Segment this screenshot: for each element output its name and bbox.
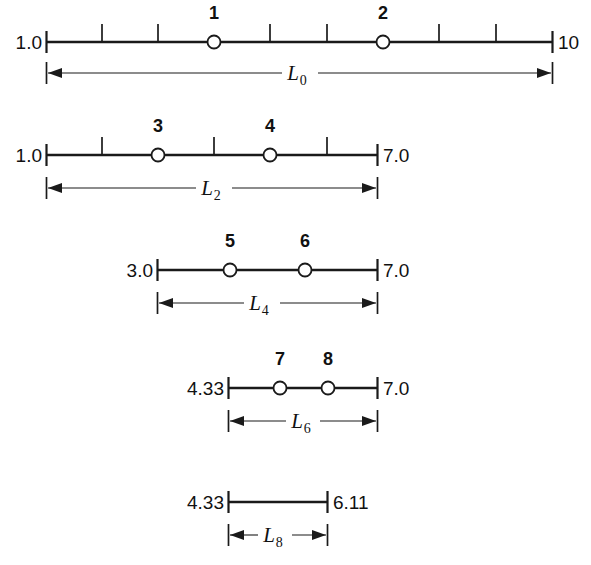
dimension-label-L2: L2 [200,176,221,203]
interval-right-label-L6: 7.0 [383,378,409,399]
trial-point-marker-8 [322,382,335,395]
interval-right-label-L2: 7.0 [383,145,409,166]
trial-point-marker-5 [224,264,237,277]
dimension-L2: L2 [47,176,378,203]
trial-point-label-3: 3 [153,116,163,136]
interval-row-L0: 1.0 1 2 10 [16,3,580,88]
interval-reduction-figure: 1.0 1 2 10 [0,0,591,565]
trial-point-label-6: 6 [300,231,310,251]
trial-point-label-4: 4 [265,116,275,136]
interval-row-L4: 3.0 5 6 7.0 L4 [127,231,410,318]
trial-point-marker-1 [208,36,221,49]
interval-row-L8: 4.33 6.11 L8 [187,491,369,550]
interval-right-label-L0: 10 [558,32,579,53]
dimension-L6: L6 [229,409,378,436]
interval-left-label-L8: 4.33 [187,492,224,513]
interval-left-label-L6: 4.33 [187,378,224,399]
dimension-label-L6: L6 [290,409,311,436]
interval-left-label-L2: 1.0 [16,145,42,166]
trial-point-label-5: 5 [225,231,235,251]
trial-point-marker-3 [152,149,165,162]
trial-point-marker-6 [299,264,312,277]
interval-row-L6: 4.33 7 8 7.0 L6 [187,349,409,436]
trial-point-marker-2 [377,36,390,49]
interval-left-label-L0: 1.0 [16,32,42,53]
dimension-label-L8: L8 [262,523,283,550]
trial-point-marker-4 [264,149,277,162]
axis-ticks-L2 [102,137,327,155]
dimension-L4: L4 [158,291,378,318]
dimension-label-L0: L0 [286,61,307,88]
trial-point-label-2: 2 [378,3,388,23]
interval-right-label-L4: 7.0 [383,260,409,281]
dimension-L0: L0 [47,61,553,88]
trial-point-label-8: 8 [323,349,333,369]
trial-point-label-7: 7 [275,349,285,369]
axis-ticks-L0 [102,24,496,42]
trial-point-label-1: 1 [209,3,219,23]
trial-point-marker-7 [274,382,287,395]
dimension-L8: L8 [229,523,328,550]
dimension-label-L4: L4 [248,291,269,318]
interval-row-L2: 1.0 3 4 7.0 L2 [16,116,410,203]
interval-left-label-L4: 3.0 [127,260,153,281]
interval-right-label-L8: 6.11 [333,492,369,513]
